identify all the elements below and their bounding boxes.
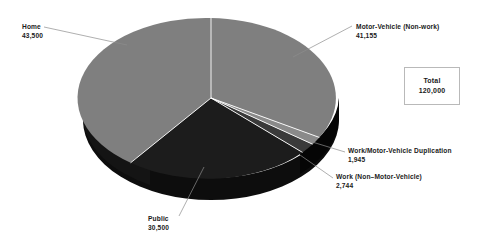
callout-label-work-mv-duplication: Work/Motor-Vehicle Duplication 1,945 bbox=[348, 146, 452, 165]
callout-label-home: Home 43,500 bbox=[22, 22, 43, 41]
callout-label-work-mv-duplication-name: Work/Motor-Vehicle Duplication bbox=[348, 146, 452, 155]
total-box: Total 120,000 bbox=[404, 67, 460, 105]
total-box-label: Total bbox=[423, 76, 440, 87]
callout-label-public: Public 30,500 bbox=[148, 214, 169, 233]
leader-line-motor-vehicle-nonwork bbox=[293, 26, 352, 57]
total-box-value: 120,000 bbox=[419, 86, 446, 97]
callout-label-work-non-mv-value: 2,744 bbox=[336, 181, 422, 190]
callout-label-motor-vehicle-nonwork-name: Motor-Vehicle (Non-work) bbox=[356, 22, 439, 31]
chart-canvas: Home 43,500 Motor-Vehicle (Non-work) 41,… bbox=[0, 0, 483, 247]
callout-label-home-name: Home bbox=[22, 22, 43, 31]
callout-label-motor-vehicle-nonwork: Motor-Vehicle (Non-work) 41,155 bbox=[356, 22, 439, 41]
pie-top-face bbox=[77, 18, 335, 179]
callout-label-work-mv-duplication-value: 1,945 bbox=[348, 155, 452, 164]
callout-label-work-non-mv-name: Work (Non–Motor-Vehicle) bbox=[336, 172, 422, 181]
callout-label-public-value: 30,500 bbox=[148, 223, 169, 232]
leader-line-home bbox=[44, 27, 127, 45]
callout-label-public-name: Public bbox=[148, 214, 169, 223]
callout-label-home-value: 43,500 bbox=[22, 31, 43, 40]
callout-label-work-non-mv: Work (Non–Motor-Vehicle) 2,744 bbox=[336, 172, 422, 191]
callout-label-motor-vehicle-nonwork-value: 41,155 bbox=[356, 31, 439, 40]
